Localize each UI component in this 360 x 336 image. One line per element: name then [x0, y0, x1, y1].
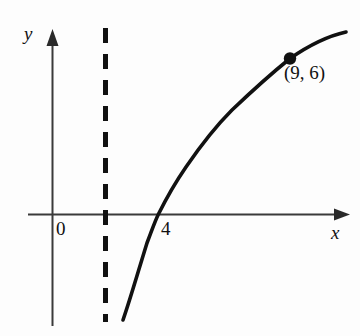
x-intercept-tick-label: 4: [161, 219, 171, 238]
y-axis: [47, 29, 59, 326]
x-axis-label: x: [331, 223, 339, 242]
graph-figure: y x 0 4 (9, 6): [0, 0, 360, 336]
y-axis-label: y: [24, 24, 32, 43]
x-axis-arrowhead: [334, 209, 350, 221]
x-axis: [28, 209, 350, 221]
plot-canvas: [0, 0, 360, 336]
y-axis-arrowhead: [47, 29, 59, 46]
origin-tick-label: 0: [56, 219, 66, 238]
marked-point-label: (9, 6): [284, 63, 325, 82]
